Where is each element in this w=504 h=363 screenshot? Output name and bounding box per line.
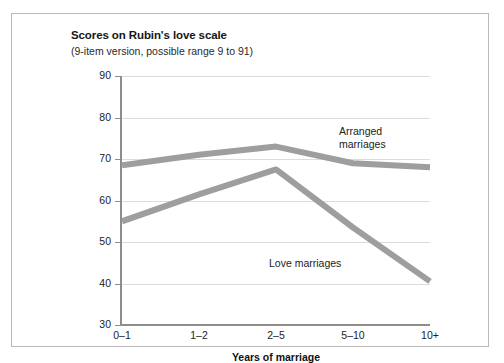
y-tick-mark-40 [115, 284, 120, 285]
y-tick-label-70: 70 [81, 152, 111, 164]
y-axis-line [120, 76, 122, 326]
y-tick-mark-50 [115, 242, 120, 243]
figure-frame: Scores on Rubin's love scale (9-item ver… [11, 13, 489, 347]
y-tick-label-80: 80 [81, 111, 111, 123]
y-tick-label-60: 60 [81, 194, 111, 206]
y-tick-mark-90 [115, 76, 120, 77]
series-annotation-arranged: Arranged marriages [339, 125, 386, 151]
x-tick-label-0-1: 0–1 [102, 329, 142, 341]
x-tick-label-10-plus: 10+ [410, 329, 450, 341]
x-tick-label-2-5: 2–5 [256, 329, 296, 341]
series-annotation-love: Love marriages [269, 257, 341, 270]
x-axis-line [120, 324, 430, 326]
y-tick-mark-30 [115, 325, 120, 326]
x-tick-label-1-2: 1–2 [179, 329, 219, 341]
y-tick-mark-70 [115, 159, 120, 160]
y-tick-label-40: 40 [81, 277, 111, 289]
chart-title: Scores on Rubin's love scale [71, 29, 227, 41]
y-tick-label-50: 50 [81, 235, 111, 247]
chart-subtitle: (9-item version, possible range 9 to 91) [71, 45, 253, 57]
y-tick-mark-80 [115, 118, 120, 119]
y-tick-label-90: 90 [81, 69, 111, 81]
x-tick-label-5-10: 5–10 [333, 329, 373, 341]
x-axis-title: Years of marriage [122, 351, 430, 363]
y-tick-mark-60 [115, 201, 120, 202]
series-lines [122, 76, 432, 327]
